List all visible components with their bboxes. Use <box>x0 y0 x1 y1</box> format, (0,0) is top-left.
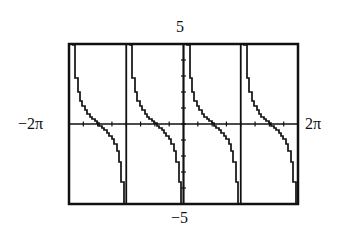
cotangent-graph <box>0 0 345 234</box>
xmin-label: −2π <box>18 116 43 132</box>
ymin-label: −5 <box>171 210 188 226</box>
ymax-label: 5 <box>176 19 184 35</box>
xmax-label: 2π <box>305 116 321 132</box>
